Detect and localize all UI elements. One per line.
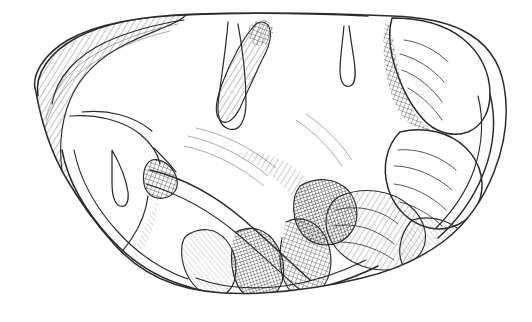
brain-illustration: [0, 0, 532, 322]
figure-root: [0, 0, 532, 322]
